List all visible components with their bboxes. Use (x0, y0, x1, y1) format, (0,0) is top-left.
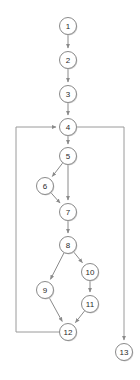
node-label-11: 11 (86, 300, 95, 309)
node-label-3: 3 (66, 90, 71, 99)
node-label-4: 4 (66, 123, 71, 132)
edge-8-to-9 (50, 253, 63, 279)
node-label-12: 12 (64, 328, 73, 337)
edges-layer (16, 35, 124, 340)
node-label-7: 7 (66, 208, 71, 217)
nodes-layer: 12345678910111213 (37, 18, 134, 362)
graph-node-12[interactable]: 12 (60, 324, 78, 342)
node-label-5: 5 (66, 152, 71, 161)
edge-12-to-4 (16, 127, 60, 332)
edge-5-to-6 (52, 163, 62, 176)
graph-node-4[interactable]: 4 (60, 119, 78, 137)
graph-node-13[interactable]: 13 (116, 344, 134, 362)
graph-node-2[interactable]: 2 (60, 52, 78, 70)
edge-6-to-7 (51, 193, 60, 203)
node-label-6: 6 (43, 182, 48, 191)
graph-node-6[interactable]: 6 (37, 178, 55, 196)
graph-node-1[interactable]: 1 (60, 18, 78, 36)
graph-node-9[interactable]: 9 (37, 282, 55, 300)
node-label-13: 13 (120, 348, 129, 357)
node-label-1: 1 (66, 22, 71, 31)
graph-node-10[interactable]: 10 (82, 264, 100, 282)
graph-node-7[interactable]: 7 (60, 204, 78, 222)
edge-8-to-10 (74, 252, 83, 263)
graph-node-8[interactable]: 8 (60, 237, 78, 255)
graph-node-3[interactable]: 3 (60, 86, 78, 104)
node-label-9: 9 (43, 286, 48, 295)
graph-node-5[interactable]: 5 (60, 148, 78, 166)
node-label-8: 8 (66, 241, 71, 250)
flow-graph-canvas: 12345678910111213 (0, 0, 140, 380)
edge-11-to-12 (75, 311, 84, 322)
flow-graph-svg: 12345678910111213 (0, 0, 140, 380)
graph-node-11[interactable]: 11 (82, 296, 100, 314)
edge-9-to-12 (49, 298, 62, 322)
node-label-10: 10 (86, 268, 95, 277)
node-label-2: 2 (66, 56, 71, 65)
